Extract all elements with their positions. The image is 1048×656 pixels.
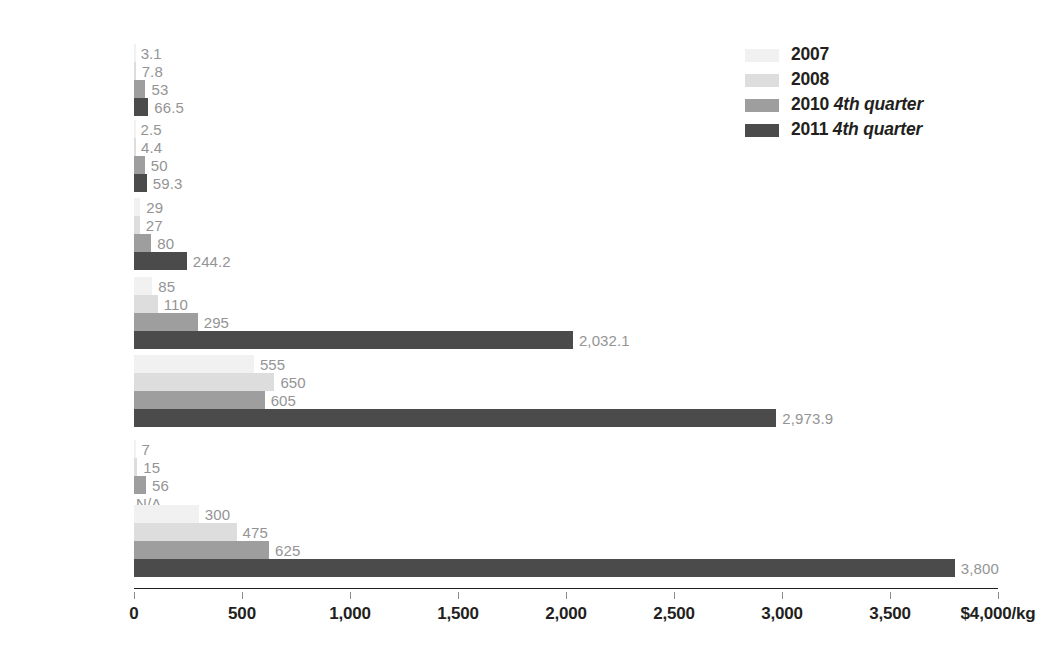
- bar-terbium-2010-4th-quarter: [134, 391, 265, 409]
- bar-europium-2008: [134, 523, 237, 541]
- bar-terbium-2011-4th-quarter: [134, 409, 776, 427]
- bar-neodymium-2011-4th-quarter: [134, 252, 187, 270]
- legend-label-year: 2010: [791, 94, 829, 114]
- x-axis-tick-3000: [782, 592, 783, 599]
- x-axis-tick-label-3500: 3,500: [869, 604, 911, 624]
- bar-value-yttrium-2008: 15: [143, 459, 160, 476]
- bar-value-neodymium-2008: 27: [146, 217, 163, 234]
- x-axis-line: [134, 588, 998, 589]
- x-axis-tick-0: [134, 592, 135, 599]
- bar-yttrium-2010-4th-quarter: [134, 476, 146, 494]
- bar-value-europium-2007: 300: [205, 506, 230, 523]
- x-axis-tick-label-500: 500: [228, 604, 256, 624]
- bar-value-terbium-2008: 650: [280, 374, 305, 391]
- bar-value-europium-2010-4th-quarter: 625: [275, 542, 300, 559]
- x-axis-tick-label-4000: $4,000/kg: [961, 604, 1036, 624]
- x-axis-tick-1000: [350, 592, 351, 599]
- legend-swatch-icon-2010: [745, 99, 779, 112]
- legend-label-year: 2008: [791, 69, 829, 89]
- bar-lanthanum-2010-4th-quarter: [134, 80, 145, 98]
- x-axis-tick-label-0: 0: [129, 604, 138, 624]
- bar-yttrium-2007: [134, 440, 136, 458]
- bar-neodymium-2007: [134, 198, 140, 216]
- bar-dysprosium-2008: [134, 295, 158, 313]
- bar-value-lanthanum-2008: 7.8: [142, 63, 163, 80]
- legend-label-year: 2011: [791, 119, 828, 139]
- bar-dysprosium-2007: [134, 277, 152, 295]
- bar-dysprosium-2010-4th-quarter: [134, 313, 198, 331]
- bar-cerium-2007: [134, 120, 136, 138]
- bar-neodymium-2010-4th-quarter: [134, 234, 151, 252]
- legend-label-2011: 2011 4th quarter: [791, 119, 922, 140]
- legend-label-2008: 2008: [791, 69, 829, 90]
- bar-value-europium-2011-4th-quarter: 3,800: [961, 560, 999, 577]
- bar-value-terbium-2010-4th-quarter: 605: [271, 392, 296, 409]
- rare-earth-price-bar-chart: Lanthanum3.17.85366.5Cerium2.54.45059.3N…: [0, 0, 1048, 656]
- legend-label-quarter: 4th quarter: [833, 119, 922, 139]
- bar-value-cerium-2011-4th-quarter: 59.3: [153, 175, 183, 192]
- x-axis-tick-2500: [674, 592, 675, 599]
- bar-cerium-2011-4th-quarter: [134, 174, 147, 192]
- bar-cerium-2010-4th-quarter: [134, 156, 145, 174]
- bar-neodymium-2008: [134, 216, 140, 234]
- bar-terbium-2008: [134, 373, 274, 391]
- bar-value-cerium-2007: 2.5: [141, 121, 162, 138]
- legend-label-2007: 2007: [791, 44, 829, 65]
- x-axis-tick-label-2500: 2,500: [653, 604, 695, 624]
- bar-europium-2010-4th-quarter: [134, 541, 269, 559]
- x-axis-tick-label-2000: 2,000: [545, 604, 587, 624]
- x-axis-tick-4000: [998, 592, 999, 599]
- legend-label-year: 2007: [791, 44, 829, 64]
- bar-value-dysprosium-2007: 85: [158, 278, 175, 295]
- bar-value-lanthanum-2011-4th-quarter: 66.5: [154, 99, 184, 116]
- bar-lanthanum-2011-4th-quarter: [134, 98, 148, 116]
- bar-value-yttrium-2007: 7: [142, 441, 150, 458]
- bar-value-lanthanum-2010-4th-quarter: 53: [151, 81, 168, 98]
- legend-swatch-icon-2011: [745, 124, 779, 137]
- bar-value-yttrium-2010-4th-quarter: 56: [152, 477, 169, 494]
- bar-value-neodymium-2010-4th-quarter: 80: [157, 235, 174, 252]
- bar-value-terbium-2007: 555: [260, 356, 285, 373]
- bar-value-lanthanum-2007: 3.1: [141, 45, 162, 62]
- x-axis-tick-3500: [890, 592, 891, 599]
- bar-value-dysprosium-2010-4th-quarter: 295: [204, 314, 229, 331]
- bar-europium-2011-4th-quarter: [134, 559, 955, 577]
- bar-lanthanum-2008: [134, 62, 136, 80]
- x-axis-tick-label-1000: 1,000: [329, 604, 371, 624]
- bar-value-neodymium-2011-4th-quarter: 244.2: [193, 253, 231, 270]
- bar-cerium-2008: [134, 138, 136, 156]
- legend-label-2010: 2010 4th quarter: [791, 94, 923, 115]
- bar-value-cerium-2010-4th-quarter: 50: [151, 157, 168, 174]
- bar-yttrium-2008: [134, 458, 137, 476]
- bar-value-dysprosium-2008: 110: [164, 296, 188, 313]
- bar-europium-2007: [134, 505, 199, 523]
- bar-value-cerium-2008: 4.4: [141, 139, 162, 156]
- bar-terbium-2007: [134, 355, 254, 373]
- cropped-chart-title: [0, 0, 1048, 8]
- legend-swatch-icon-2007: [745, 49, 779, 62]
- bar-value-neodymium-2007: 29: [146, 199, 163, 216]
- x-axis-tick-2000: [566, 592, 567, 599]
- legend-label-quarter: 4th quarter: [834, 94, 923, 114]
- x-axis-tick-500: [242, 592, 243, 599]
- x-axis-tick-label-3000: 3,000: [761, 604, 803, 624]
- bar-value-terbium-2011-4th-quarter: 2,973.9: [782, 410, 833, 427]
- bar-value-dysprosium-2011-4th-quarter: 2,032.1: [579, 332, 630, 349]
- x-axis-tick-label-1500: 1,500: [437, 604, 479, 624]
- legend-swatch-icon-2008: [745, 74, 779, 87]
- bar-dysprosium-2011-4th-quarter: [134, 331, 573, 349]
- bar-value-europium-2008: 475: [243, 524, 268, 541]
- bar-lanthanum-2007: [134, 44, 136, 62]
- x-axis-tick-1500: [458, 592, 459, 599]
